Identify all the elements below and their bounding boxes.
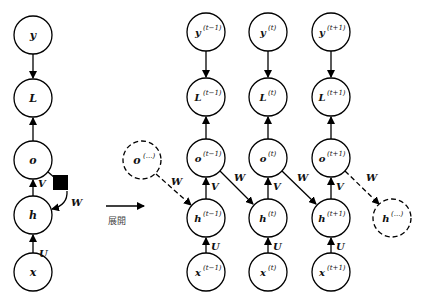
svg-text:(t+1): (t+1) <box>327 24 346 32</box>
column-t-plus-1: V U y (t+1) L (t+1) o (t+1) h (t+1) x (t… <box>312 13 350 291</box>
node-h-t: h (t) <box>249 199 287 237</box>
column-t: V U y (t) L (t) o (t) h (t) x (t) <box>249 13 287 291</box>
svg-text:L: L <box>28 92 37 105</box>
svg-text:(...): (...) <box>143 152 155 160</box>
node-L: L <box>14 79 52 117</box>
node-y-t-plus-1: y (t+1) <box>312 13 350 51</box>
svg-text:U: U <box>211 241 221 252</box>
svg-text:V: V <box>273 181 282 192</box>
node-h-t-plus-1: h (t+1) <box>312 199 350 237</box>
svg-text:x: x <box>29 266 37 279</box>
svg-text:U: U <box>336 241 346 252</box>
svg-text:y: y <box>259 27 267 38</box>
svg-text:L: L <box>193 92 201 103</box>
label-W: W <box>71 197 84 208</box>
svg-text:(t+1): (t+1) <box>327 210 346 218</box>
svg-text:(t−1): (t−1) <box>203 150 222 158</box>
node-L-t-minus-1: L (t−1) <box>187 78 225 116</box>
svg-text:V: V <box>336 181 345 192</box>
node-x-t-minus-1: x (t−1) <box>187 253 225 291</box>
svg-text:x: x <box>318 267 326 278</box>
node-o-ellipsis: o (...) <box>123 141 161 179</box>
folded-graph: y L o h x V W U <box>14 16 84 291</box>
node-o-t-plus-1: o (t+1) <box>312 139 350 177</box>
svg-text:(t−1): (t−1) <box>203 264 222 272</box>
label-U: U <box>39 248 49 259</box>
svg-text:y: y <box>194 27 202 38</box>
node-h-t-minus-1: h (t−1) <box>187 199 225 237</box>
node-x-t: x (t) <box>249 253 287 291</box>
svg-text:o: o <box>133 154 140 167</box>
svg-text:U: U <box>273 241 283 252</box>
svg-text:(t): (t) <box>268 264 277 272</box>
svg-text:y: y <box>318 27 326 38</box>
svg-text:W: W <box>297 172 310 183</box>
rnn-diagram: y L o h x V W U 展開 o (...) <box>0 0 421 306</box>
node-y-t: y (t) <box>249 13 287 51</box>
svg-text:(t+1): (t+1) <box>327 89 346 97</box>
svg-text:h: h <box>194 213 201 224</box>
svg-text:(t−1): (t−1) <box>203 89 222 97</box>
svg-text:o: o <box>29 154 36 167</box>
svg-text:W: W <box>234 172 247 183</box>
node-x-t-plus-1: x (t+1) <box>312 253 350 291</box>
svg-text:h: h <box>318 213 325 224</box>
label-V: V <box>38 178 47 189</box>
svg-text:L: L <box>317 92 325 103</box>
node-h: h <box>14 196 52 234</box>
node-L-t-plus-1: L (t+1) <box>312 78 350 116</box>
svg-text:(...): (...) <box>391 210 403 218</box>
svg-text:(t): (t) <box>268 24 277 32</box>
unfolded-graph: o (...) W V U y (t−1) L (t−1) o (t−1) h <box>123 13 411 291</box>
node-y: y <box>14 16 52 54</box>
svg-text:(t−1): (t−1) <box>203 210 222 218</box>
node-o: o <box>14 141 52 179</box>
svg-text:o: o <box>260 153 267 164</box>
svg-text:x: x <box>259 267 267 278</box>
unfold-arrow: 展開 <box>106 206 144 226</box>
node-o-t-minus-1: o (t−1) <box>187 139 225 177</box>
svg-text:(t): (t) <box>268 150 277 158</box>
svg-text:(t): (t) <box>268 210 277 218</box>
unfold-label: 展開 <box>108 216 126 226</box>
svg-text:h: h <box>382 213 389 224</box>
svg-text:o: o <box>195 153 202 164</box>
svg-text:(t+1): (t+1) <box>327 150 346 158</box>
delay-square-icon <box>53 175 68 190</box>
svg-text:h: h <box>259 213 266 224</box>
node-y-t-minus-1: y (t−1) <box>187 13 225 51</box>
svg-text:V: V <box>211 181 220 192</box>
svg-text:(t−1): (t−1) <box>203 24 222 32</box>
node-h-ellipsis: h (...) <box>373 199 411 237</box>
svg-text:h: h <box>29 209 37 222</box>
node-L-t: L (t) <box>249 78 287 116</box>
svg-text:o: o <box>319 153 326 164</box>
svg-text:x: x <box>194 267 202 278</box>
label-W-out: W <box>366 172 379 183</box>
svg-text:(t+1): (t+1) <box>327 264 346 272</box>
label-W-in: W <box>171 176 184 187</box>
svg-text:(t): (t) <box>268 89 277 97</box>
column-t-minus-1: V U y (t−1) L (t−1) o (t−1) h (t−1) x (t… <box>187 13 225 291</box>
edge-square-h <box>52 191 67 209</box>
node-o-t: o (t) <box>249 139 287 177</box>
svg-text:L: L <box>258 92 266 103</box>
